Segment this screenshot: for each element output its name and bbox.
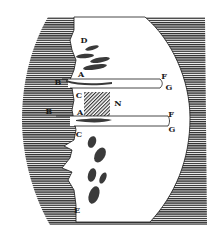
label-a: A (77, 108, 83, 116)
label-f: F (161, 72, 167, 80)
label-f: F (168, 110, 174, 118)
diagram-artwork (0, 0, 217, 240)
label-d: D (81, 36, 88, 44)
upper-light-band (62, 79, 162, 88)
engraved-diagram: D A B F G C N B A F G C E (0, 0, 217, 240)
region-n-shading (84, 92, 110, 116)
label-c: C (76, 91, 82, 99)
label-a: A (78, 70, 84, 78)
label-g: G (166, 83, 173, 91)
label-b: B (55, 78, 62, 86)
label-g: G (169, 125, 176, 133)
label-c: C (76, 130, 82, 138)
label-b: B (46, 107, 53, 115)
label-n: N (114, 99, 121, 107)
label-e: E (74, 206, 80, 214)
lower-light-band (56, 116, 170, 126)
